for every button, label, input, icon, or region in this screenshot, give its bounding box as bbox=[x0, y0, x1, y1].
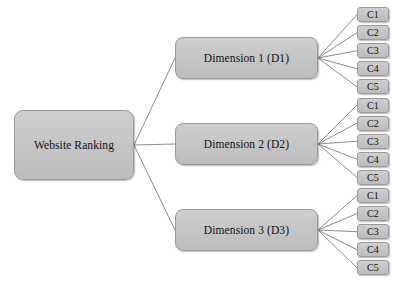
node-criterion-label: C5 bbox=[367, 262, 379, 273]
edge-dimension-1-to-c2 bbox=[318, 33, 357, 58]
node-criterion-label: C3 bbox=[367, 136, 379, 147]
node-criterion-label: C2 bbox=[367, 27, 379, 38]
node-criterion-d2-c3[interactable]: C3 bbox=[357, 134, 389, 149]
node-criterion-d1-c2[interactable]: C2 bbox=[357, 25, 389, 40]
edge-dimension-2-to-c4 bbox=[318, 144, 357, 159]
node-criterion-label: C2 bbox=[367, 208, 379, 219]
edge-root-to-dimension-3 bbox=[134, 145, 175, 230]
edge-root-to-dimension-1 bbox=[134, 58, 175, 145]
edge-dimension-2-to-c3 bbox=[318, 141, 357, 144]
node-criterion-d2-c2[interactable]: C2 bbox=[357, 116, 389, 131]
edge-dimension-1-to-c3 bbox=[318, 51, 357, 58]
edge-dimension-2-to-c2 bbox=[318, 123, 357, 144]
node-dimension-1[interactable]: Dimension 1 (D1) bbox=[175, 37, 318, 79]
node-criterion-d2-c1[interactable]: C1 bbox=[357, 98, 389, 113]
node-criterion-d1-c1[interactable]: C1 bbox=[357, 7, 389, 22]
node-criterion-d1-c5[interactable]: C5 bbox=[357, 79, 389, 94]
node-criterion-d1-c4[interactable]: C4 bbox=[357, 61, 389, 76]
node-criterion-label: C4 bbox=[367, 154, 379, 165]
diagram-canvas: Website Ranking Dimension 1 (D1) Dimensi… bbox=[0, 0, 398, 288]
node-criterion-label: C3 bbox=[367, 45, 379, 56]
edge-dimension-1-to-c5 bbox=[318, 58, 357, 87]
edge-dimension-3-to-c1 bbox=[318, 196, 357, 231]
node-criterion-label: C1 bbox=[367, 100, 379, 111]
node-criterion-label: C3 bbox=[367, 226, 379, 237]
edge-dimension-3-to-c4 bbox=[318, 230, 357, 250]
node-criterion-label: C4 bbox=[367, 63, 379, 74]
node-criterion-label: C5 bbox=[367, 172, 379, 183]
node-criterion-d1-c3[interactable]: C3 bbox=[357, 43, 389, 58]
edge-dimension-3-to-c2 bbox=[318, 214, 357, 230]
edge-root-to-dimension-2 bbox=[134, 144, 175, 145]
node-criterion-d2-c4[interactable]: C4 bbox=[357, 152, 389, 167]
node-root-website-ranking[interactable]: Website Ranking bbox=[14, 110, 134, 180]
node-criterion-d3-c4[interactable]: C4 bbox=[357, 242, 389, 257]
node-criterion-d3-c2[interactable]: C2 bbox=[357, 206, 389, 221]
node-dimension-3[interactable]: Dimension 3 (D3) bbox=[175, 209, 318, 251]
edge-dimension-2-to-c5 bbox=[318, 144, 357, 177]
edge-dimension-2-to-c1 bbox=[318, 105, 357, 144]
node-dimension-3-label: Dimension 3 (D3) bbox=[204, 224, 289, 236]
node-criterion-d3-c3[interactable]: C3 bbox=[357, 224, 389, 239]
node-criterion-label: C1 bbox=[367, 190, 379, 201]
node-criterion-label: C4 bbox=[367, 244, 379, 255]
edge-dimension-1-to-c1 bbox=[318, 15, 357, 59]
node-criterion-d2-c5[interactable]: C5 bbox=[357, 170, 389, 185]
node-criterion-label: C1 bbox=[367, 9, 379, 20]
node-criterion-label: C5 bbox=[367, 81, 379, 92]
edge-dimension-1-to-c4 bbox=[318, 58, 357, 69]
node-dimension-1-label: Dimension 1 (D1) bbox=[204, 52, 289, 64]
node-dimension-2[interactable]: Dimension 2 (D2) bbox=[175, 123, 318, 165]
edge-dimension-3-to-c3 bbox=[318, 230, 357, 232]
node-criterion-label: C2 bbox=[367, 118, 379, 129]
node-criterion-d3-c1[interactable]: C1 bbox=[357, 188, 389, 203]
edge-dimension-3-to-c5 bbox=[318, 230, 357, 268]
node-root-label: Website Ranking bbox=[34, 139, 114, 151]
node-criterion-d3-c5[interactable]: C5 bbox=[357, 260, 389, 275]
node-dimension-2-label: Dimension 2 (D2) bbox=[204, 138, 289, 150]
